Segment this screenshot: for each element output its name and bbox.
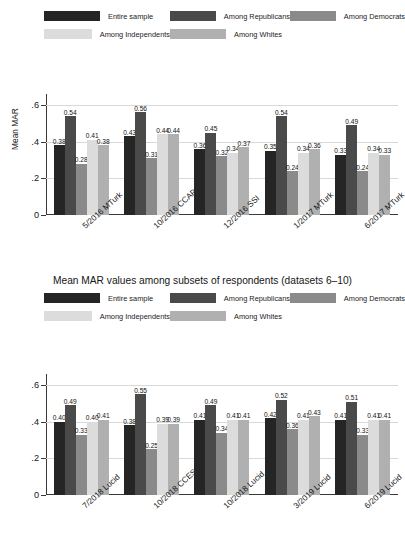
bar-among-independents[interactable]: 0.34	[227, 153, 238, 215]
bar-group: 0.360.450.320.340.3712/2016 SSI	[192, 94, 252, 215]
bar-value-label: 0.31	[145, 151, 158, 158]
bar-value-label: 0.44	[167, 127, 180, 134]
bar-among-democrats[interactable]: 0.31	[146, 158, 157, 215]
bar-groups: 0.400.490.330.400.417/2018 Lucid0.380.55…	[46, 374, 398, 495]
legend-item-entire[interactable]: Entire sample	[44, 291, 170, 305]
bar-among-democrats[interactable]: 0.34	[216, 433, 227, 495]
bar-among-republicans[interactable]: 0.49	[205, 405, 216, 495]
bar-value-label: 0.33	[356, 427, 369, 434]
bar-among-democrats[interactable]: 0.33	[76, 435, 87, 496]
bar-among-independents[interactable]: 0.41	[298, 420, 309, 495]
legend-item-democrats[interactable]: Among Democrats	[290, 9, 405, 23]
bar-entire-sample[interactable]: 0.40	[54, 422, 65, 495]
bar-value-label: 0.36	[194, 142, 207, 149]
bar-value-label: 0.49	[205, 398, 218, 405]
bar-among-democrats[interactable]: 0.32	[216, 156, 227, 215]
legend-swatch-republicans-icon	[170, 293, 216, 303]
bar-value-label: 0.33	[75, 427, 88, 434]
legend-item-independents[interactable]: Among Independents	[44, 309, 170, 323]
bar-groups: 0.380.540.280.410.385/2016 MTurk0.430.56…	[46, 94, 398, 215]
bar-value-label: 0.38	[123, 418, 136, 425]
bar-among-independents[interactable]: 0.41	[227, 420, 238, 495]
bar-value-label: 0.36	[308, 142, 321, 149]
bar-among-republicans[interactable]: 0.51	[346, 402, 357, 496]
legend-swatch-entire-icon	[44, 11, 100, 21]
bar-group: 0.410.490.340.410.4110/2018 Lucid	[192, 374, 252, 495]
bar-among-democrats[interactable]: 0.25	[146, 449, 157, 495]
legend-row: Entire sampleAmong RepublicansAmong Demo…	[44, 9, 405, 23]
bar-among-republicans[interactable]: 0.45	[205, 133, 216, 216]
legend-label-entire: Entire sample	[108, 294, 153, 303]
bar-among-democrats[interactable]: 0.24	[357, 171, 368, 215]
bar-group: 0.330.490.240.340.336/2017 MTurk	[333, 94, 393, 215]
legend-label-democrats: Among Democrats	[344, 294, 405, 303]
y-axis-tick-label: .6	[31, 380, 39, 390]
y-axis-tick-label: .4	[31, 137, 39, 147]
bar-among-republicans[interactable]: 0.49	[65, 405, 76, 495]
legend-top: Entire sampleAmong RepublicansAmong Demo…	[44, 9, 405, 45]
bar-value-label: 0.33	[334, 147, 347, 154]
legend-label-whites: Among Whites	[234, 312, 282, 321]
bar-among-independents[interactable]: 0.34	[368, 153, 379, 215]
bar-value-label: 0.43	[123, 129, 136, 136]
plot-area-top: 0.2.4.60.380.540.280.410.385/2016 MTurk0…	[46, 94, 398, 215]
bar-value-label: 0.49	[64, 398, 77, 405]
bar-value-label: 0.54	[275, 109, 288, 116]
bar-among-republicans[interactable]: 0.52	[276, 400, 287, 495]
bar-value-label: 0.25	[145, 442, 158, 449]
bar-entire-sample[interactable]: 0.43	[124, 136, 135, 215]
bar-group: 0.380.550.250.390.3910/2018 CCES	[122, 374, 182, 495]
legend-item-whites[interactable]: Among Whites	[170, 27, 290, 41]
bar-entire-sample[interactable]: 0.41	[335, 420, 346, 495]
bar-entire-sample[interactable]: 0.33	[335, 155, 346, 216]
legend-label-democrats: Among Democrats	[344, 12, 405, 21]
bar-value-label: 0.34	[216, 425, 229, 432]
bar-value-label: 0.41	[238, 412, 251, 419]
bar-group: 0.350.540.240.340.361/2017 MTurk	[262, 94, 322, 215]
bar-among-democrats[interactable]: 0.36	[287, 429, 298, 495]
bar-value-label: 0.28	[75, 156, 88, 163]
legend-item-democrats[interactable]: Among Democrats	[290, 291, 405, 305]
bar-group: 0.400.490.330.400.417/2018 Lucid	[51, 374, 111, 495]
bar-value-label: 0.24	[356, 164, 369, 171]
legend-item-entire[interactable]: Entire sample	[44, 9, 170, 23]
legend-row: Among IndependentsAmong Whites	[44, 27, 405, 41]
bar-among-independents[interactable]: 0.44	[157, 134, 168, 215]
bar-entire-sample[interactable]: 0.38	[124, 425, 135, 495]
bar-entire-sample[interactable]: 0.42	[265, 418, 276, 495]
bar-among-independents[interactable]: 0.34	[298, 153, 309, 215]
legend-item-republicans[interactable]: Among Republicans	[170, 291, 290, 305]
bar-entire-sample[interactable]: 0.38	[54, 145, 65, 215]
chart-title-bottom: Mean MAR values among subsets of respond…	[0, 275, 405, 286]
y-axis-tick-label: .2	[31, 173, 39, 183]
bar-entire-sample[interactable]: 0.36	[194, 149, 205, 215]
bar-value-label: 0.42	[264, 411, 277, 418]
legend-label-independents: Among Independents	[100, 30, 170, 39]
bar-value-label: 0.33	[378, 147, 391, 154]
chart-panel-bottom: Mean MAR values among subsets of respond…	[0, 272, 405, 560]
bar-among-independents[interactable]: 0.40	[87, 422, 98, 495]
legend-swatch-independents-icon	[44, 311, 92, 321]
legend-item-independents[interactable]: Among Independents	[44, 27, 170, 41]
bar-value-label: 0.36	[286, 422, 299, 429]
bar-among-democrats[interactable]: 0.33	[357, 435, 368, 496]
bar-value-label: 0.38	[53, 138, 66, 145]
bar-among-democrats[interactable]: 0.28	[76, 164, 87, 215]
bar-entire-sample[interactable]: 0.41	[194, 420, 205, 495]
bar-among-independents[interactable]: 0.41	[368, 420, 379, 495]
bar-among-independents[interactable]: 0.39	[157, 424, 168, 496]
legend-swatch-republicans-icon	[170, 11, 216, 21]
legend-label-independents: Among Independents	[100, 312, 170, 321]
legend-item-whites[interactable]: Among Whites	[170, 309, 290, 323]
legend-item-republicans[interactable]: Among Republicans	[170, 9, 290, 23]
y-axis-tick-label: .2	[31, 453, 39, 463]
bar-among-republicans[interactable]: 0.56	[135, 112, 146, 215]
legend-label-entire: Entire sample	[108, 12, 153, 21]
bar-among-democrats[interactable]: 0.24	[287, 171, 298, 215]
bar-among-independents[interactable]: 0.41	[87, 140, 98, 215]
bar-value-label: 0.51	[345, 394, 358, 401]
bar-entire-sample[interactable]: 0.35	[265, 151, 276, 215]
bar-among-republicans[interactable]: 0.54	[65, 116, 76, 215]
bar-value-label: 0.41	[334, 412, 347, 419]
y-axis-label-top: Mean MAR	[10, 108, 20, 150]
